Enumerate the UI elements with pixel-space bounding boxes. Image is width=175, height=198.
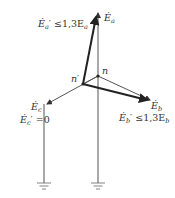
label-eb: Ėb — [151, 101, 162, 113]
label-n-prime: n′ — [71, 74, 79, 84]
ground-icon — [37, 183, 51, 189]
ground-icon — [91, 183, 105, 189]
label-ec: Ėc — [31, 102, 42, 114]
node-n-prime — [81, 82, 84, 85]
node-n — [96, 74, 99, 77]
label-ea-prime: Ėa′ ≤1,3Ea — [38, 19, 88, 31]
label-n: n — [102, 66, 108, 76]
eb-phasor — [98, 76, 150, 100]
label-ea: Ėa — [104, 13, 115, 25]
label-eb-prime: Ėb′ ≤1,3Eb — [119, 113, 169, 125]
eb-prime-phasor — [83, 84, 147, 100]
label-ec-prime: Ėc′ =0 — [20, 115, 50, 127]
